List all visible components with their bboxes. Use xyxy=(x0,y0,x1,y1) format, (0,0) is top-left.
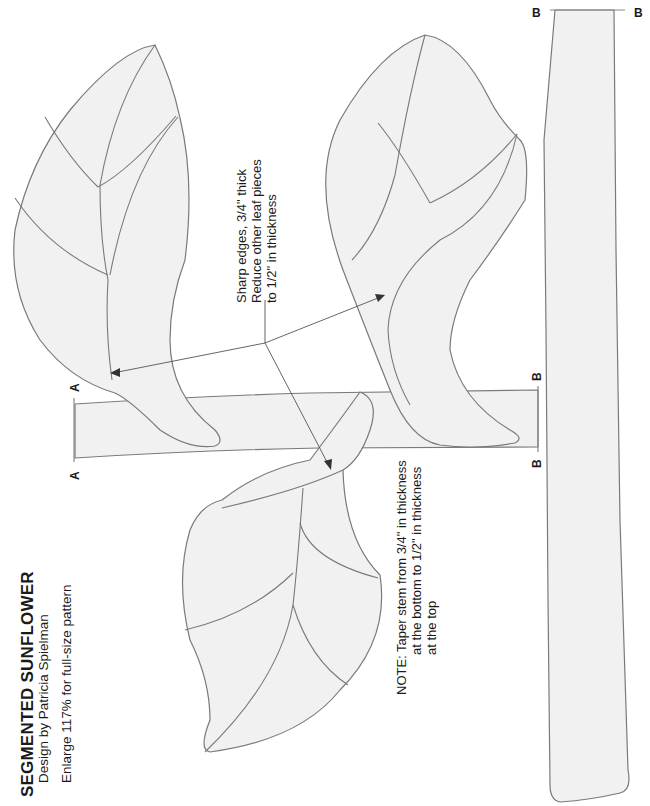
sharp-edges-callout: Sharp edges, 3/4" thick Reduce other lea… xyxy=(234,159,279,303)
designer-credit: Design by Patricia Spielman xyxy=(36,614,51,783)
pattern-drawing xyxy=(0,0,650,806)
cut-label-b-stem-bottom: B xyxy=(530,459,544,468)
callout-line-3: to 1/2" in thickness xyxy=(264,159,279,303)
cut-label-b-stem-top: B xyxy=(530,372,544,381)
note-line-3: at the top xyxy=(424,460,439,695)
cut-label-a-top: A xyxy=(68,383,82,392)
callout-line-1: Sharp edges, 3/4" thick xyxy=(234,159,249,303)
callout-line-2: Reduce other leaf pieces xyxy=(249,159,264,303)
cut-label-a-bottom: A xyxy=(68,471,82,480)
enlarge-instruction: Enlarge 117% for full-size pattern xyxy=(59,584,74,783)
taper-note: NOTE: Taper stem from 3/4" in thickness … xyxy=(394,460,439,695)
note-line-1: NOTE: Taper stem from 3/4" in thickness xyxy=(394,460,409,695)
right-leaf-piece xyxy=(326,35,527,447)
note-line-2: at the bottom to 1/2" in thickness xyxy=(409,460,424,695)
cut-label-b-long-right: B xyxy=(634,6,643,20)
long-stem-piece xyxy=(544,10,629,802)
pattern-title: SEGMENTED SUNFLOWER xyxy=(18,571,38,797)
cut-label-b-long-left: B xyxy=(532,6,541,20)
